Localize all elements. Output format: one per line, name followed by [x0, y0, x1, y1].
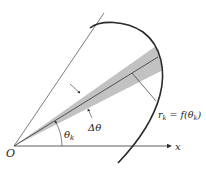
x-axis-label: x [175, 141, 181, 152]
center-ray [14, 57, 158, 146]
delta-theta-label: Δθ [87, 122, 101, 133]
delta-arrow-lower [88, 109, 92, 118]
delta-arrow-upper [70, 84, 80, 93]
angle-arc [55, 121, 62, 146]
theta-k-label: θk [64, 129, 74, 142]
origin-label: O [6, 147, 15, 160]
radius-equation-label: rk = f(θk) [158, 109, 201, 122]
polar-diagram: O x θk Δθ rk = f(θk) [0, 0, 206, 171]
